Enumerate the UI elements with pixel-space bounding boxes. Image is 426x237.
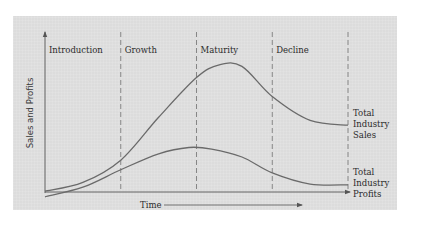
sales-label-line: Industry [353,119,390,129]
stage-label-decline: Decline [276,45,309,55]
stage-label-maturity: Maturity [201,45,239,55]
y-axis-label: Sales and Profits [25,77,35,148]
sales-label-line: Total [353,108,375,118]
sales-label-line: Sales [353,130,376,140]
profits-label-line: Total [353,167,375,177]
series-labels: TotalIndustrySalesTotalIndustryProfits [353,108,390,199]
stage-label-introduction: Introduction [49,45,103,55]
profits-label-line: Profits [353,189,381,199]
profits-label-line: Industry [353,178,390,188]
stage-label-growth: Growth [125,45,158,55]
stage-labels: IntroductionGrowthMaturityDecline [49,45,309,55]
product-life-cycle-chart: IntroductionGrowthMaturityDecline TotalI… [0,0,426,237]
stage-dividers [121,32,348,192]
x-axis-label: Time [140,200,161,210]
